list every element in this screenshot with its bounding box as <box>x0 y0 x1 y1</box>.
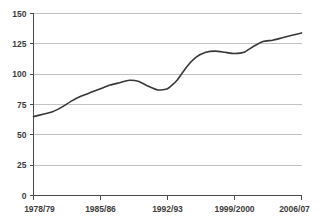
x-axis-tick-label: 1985/86 <box>85 204 116 214</box>
x-axis-labels-group: 1978/791985/861992/931999/20002006/07 <box>24 204 310 214</box>
chart-canvas: 0255075100125150 1978/791985/861992/9319… <box>0 0 321 224</box>
x-axis-tick-label: 1978/79 <box>24 204 55 214</box>
y-axis-tick-label: 25 <box>17 160 27 170</box>
x-axis-tick-label: 1992/93 <box>152 204 183 214</box>
data-line <box>34 33 302 117</box>
line-chart: 0255075100125150 1978/791985/861992/9319… <box>0 0 321 224</box>
x-axis-tick-label: 1999/2000 <box>214 204 254 214</box>
y-axis-tick-label: 50 <box>17 130 27 140</box>
y-axis-tick-label: 150 <box>12 9 26 19</box>
x-axis-tick-label: 2006/07 <box>279 204 310 214</box>
y-axis-tick-label: 0 <box>22 191 27 201</box>
y-axis-labels-group: 0255075100125150 <box>12 9 26 201</box>
y-axis-tick-label: 125 <box>12 39 26 49</box>
data-series-group <box>34 33 302 117</box>
x-axis-ticks-group <box>34 196 302 200</box>
y-axis-tick-label: 100 <box>12 69 26 79</box>
y-axis-tick-label: 75 <box>17 100 27 110</box>
